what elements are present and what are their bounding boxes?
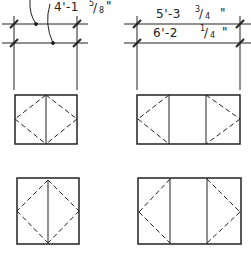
right-dimension-lines [124, 16, 251, 90]
bottom-left-box [17, 178, 79, 244]
svg-text:": " [222, 25, 228, 39]
left-dimension-label: 4'-1 5 / 8 " [54, 0, 112, 15]
svg-text:6'-2: 6'-2 [153, 26, 178, 40]
svg-text:4: 4 [205, 12, 210, 21]
right-dimension-label-top: 5'-3 3 / 4 " [156, 5, 226, 21]
top-right-box [137, 95, 240, 144]
svg-text:": " [106, 0, 112, 13]
bottom-right-box [138, 178, 241, 244]
svg-text:8: 8 [99, 6, 104, 15]
svg-text:5'-3: 5'-3 [156, 7, 181, 21]
svg-text:4: 4 [210, 31, 215, 40]
svg-text:": " [220, 6, 226, 20]
fold-pattern-diagram: 4'-1 5 / 8 " 5'-3 3 / 4 " 6'-2 1 / 4 " [0, 0, 251, 254]
svg-text:/: / [204, 26, 209, 40]
top-left-box [15, 95, 77, 144]
svg-text:4'-1: 4'-1 [54, 0, 79, 14]
svg-text:/: / [93, 1, 98, 15]
right-dimension-label-bottom: 6'-2 1 / 4 " [153, 24, 228, 40]
svg-text:/: / [199, 7, 204, 21]
